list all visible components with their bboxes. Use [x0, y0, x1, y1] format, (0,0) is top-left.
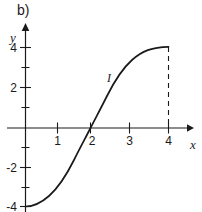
y-tick-label-2: 2	[10, 81, 17, 95]
coordinate-plot: 1 2 3 4 4 2 -2 -4 x y I	[0, 0, 202, 212]
x-tick-label-4: 4	[165, 134, 172, 148]
x-axis-arrow-icon	[187, 124, 194, 132]
x-tick-label-1: 1	[54, 134, 61, 148]
y-axis-label: y	[8, 30, 16, 45]
y-tick-label-minus-4: -4	[6, 200, 17, 212]
curve-I	[26, 47, 169, 207]
x-axis-label: x	[189, 137, 196, 152]
y-axis-arrow-icon	[22, 23, 30, 31]
y-tick-label-minus-2: -2	[6, 161, 17, 175]
curve-label: I	[106, 71, 112, 85]
x-tick-label-3: 3	[126, 134, 133, 148]
panel-label: b)	[17, 2, 29, 18]
figure-panel: b)	[0, 0, 202, 212]
x-tick-label-2: 2	[89, 134, 96, 148]
x-axis	[7, 124, 194, 132]
y-axis	[22, 23, 30, 212]
